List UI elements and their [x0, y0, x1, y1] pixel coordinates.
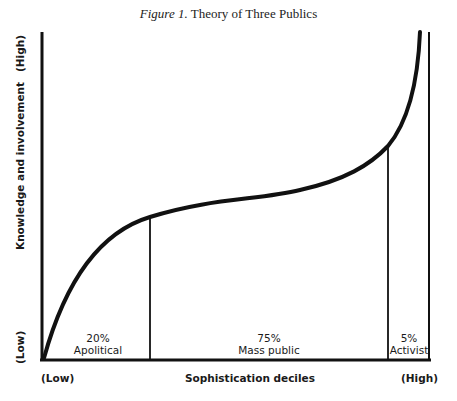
x-high-label: (High): [401, 372, 438, 384]
segment-apolitical: 20% Apolitical: [50, 332, 146, 356]
segment-name: Apolitical: [50, 344, 146, 356]
x-axis-title: Sophistication deciles: [185, 372, 315, 384]
y-low-label: (Low): [14, 331, 26, 364]
segment-name: Mass public: [152, 344, 386, 356]
segment-activist: 5% Activist: [389, 332, 429, 356]
knowledge-curve: [44, 32, 420, 358]
segment-percent: 75%: [152, 332, 386, 344]
segment-name: Activist: [389, 344, 429, 356]
segment-percent: 20%: [50, 332, 146, 344]
x-low-label: (Low): [41, 372, 74, 384]
y-high-label: (High): [14, 35, 26, 72]
segment-mass-public: 75% Mass public: [152, 332, 386, 356]
segment-percent: 5%: [389, 332, 429, 344]
y-axis-title: Knowledge and involvement: [14, 82, 26, 250]
